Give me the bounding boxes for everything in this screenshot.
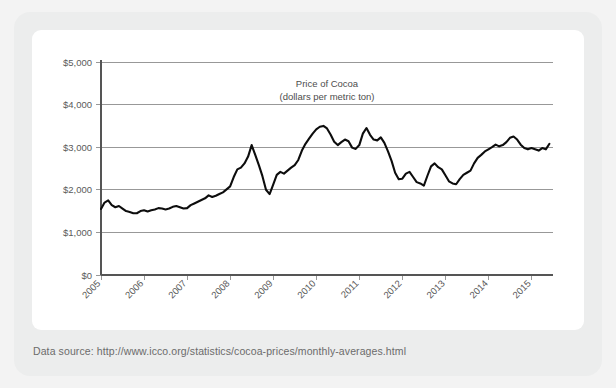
y-tick-label: $4,000 — [63, 99, 92, 110]
x-tick-label: 2015 — [510, 278, 533, 301]
chart-title: Price of Cocoa — [296, 78, 359, 89]
x-tick-label: 2012 — [381, 278, 404, 301]
chart-title-group: Price of Cocoa (dollars per metric ton) — [271, 77, 383, 104]
x-tick-label: 2013 — [424, 278, 447, 301]
x-tick-label: 2011 — [338, 278, 360, 300]
x-tick-label: 2010 — [295, 278, 318, 301]
x-tick-label: 2009 — [252, 278, 275, 301]
chart-card: $0$1,000$2,000$3,000$4,000$5,000 2005200… — [32, 30, 584, 330]
figure-root: $0$1,000$2,000$3,000$4,000$5,000 2005200… — [0, 0, 616, 388]
x-tick-label: 2006 — [123, 278, 146, 301]
x-tick-label: 2007 — [166, 278, 189, 301]
y-tick-label: $2,000 — [63, 184, 92, 195]
x-axis-tick-labels: 2005200620072008200920102011201220132014… — [80, 278, 533, 301]
x-tick-label: 2008 — [209, 278, 232, 301]
cocoa-price-series — [101, 126, 549, 213]
plot-area: $0$1,000$2,000$3,000$4,000$5,000 2005200… — [32, 30, 584, 330]
x-tick-label: 2014 — [467, 278, 490, 301]
cocoa-price-line-chart: $0$1,000$2,000$3,000$4,000$5,000 2005200… — [32, 30, 584, 330]
y-tick-label: $0 — [81, 270, 92, 281]
chart-subtitle: (dollars per metric ton) — [279, 91, 374, 102]
x-tick-label: 2005 — [80, 278, 103, 301]
y-tick-label: $3,000 — [63, 142, 92, 153]
y-axis-tick-labels: $0$1,000$2,000$3,000$4,000$5,000 — [63, 57, 92, 281]
y-tick-label: $5,000 — [63, 57, 92, 68]
data-source-caption: Data source: http://www.icco.org/statist… — [33, 345, 406, 357]
y-tick-label: $1,000 — [63, 227, 92, 238]
